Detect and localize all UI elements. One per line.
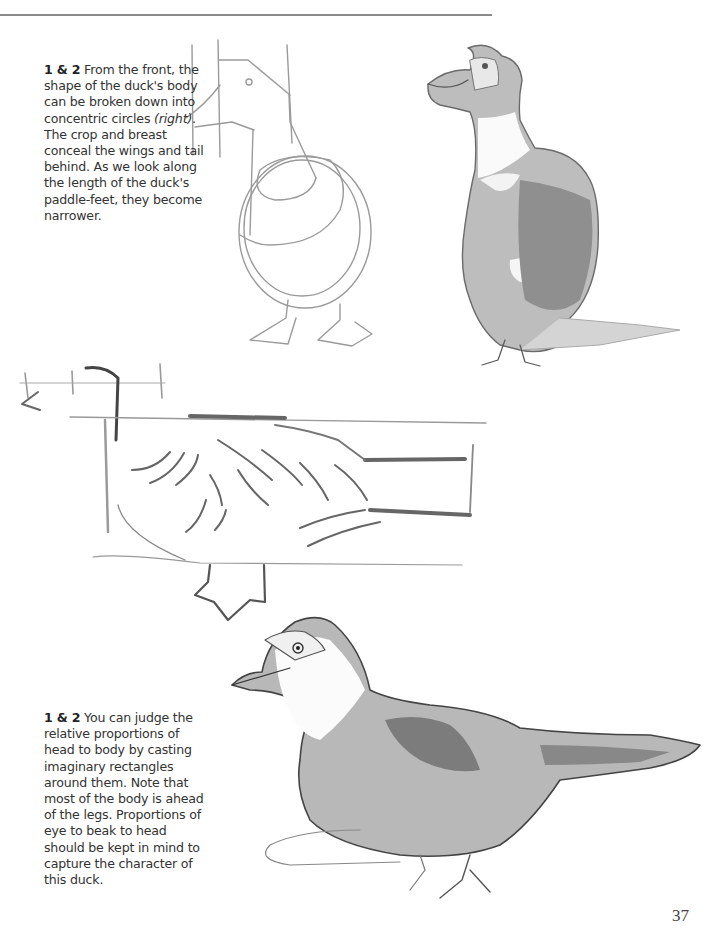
caption-front-view: 1 & 2 From the front, the shape of the d… xyxy=(44,62,209,224)
caption-text: . The crop and breast conceal the wings … xyxy=(44,111,204,223)
page-number: 37 xyxy=(672,906,689,926)
side-finished-duck xyxy=(232,618,700,898)
caption-text: You can judge the relative proportions o… xyxy=(44,710,204,887)
caption-side-view: 1 & 2 You can judge the relative proport… xyxy=(44,710,209,888)
side-rectangle-sketch xyxy=(20,364,486,620)
front-construction-sketch xyxy=(186,40,372,346)
caption-italic: (right) xyxy=(154,111,192,126)
caption-label: 1 & 2 xyxy=(44,710,80,725)
caption-label: 1 & 2 xyxy=(44,62,80,77)
front-finished-duck xyxy=(428,45,680,366)
